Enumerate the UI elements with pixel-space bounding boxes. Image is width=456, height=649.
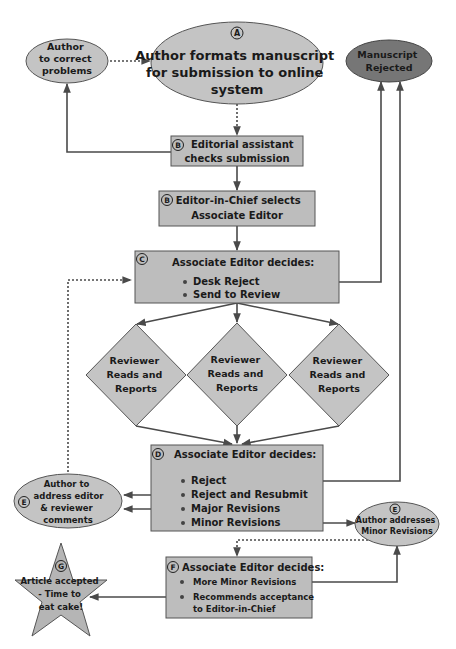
node-author-minor-revisions: E Author addresses Minor Revisions: [355, 502, 439, 546]
svg-text:Reviewer Reads and: Reviewer Reads and Reports: [309, 355, 368, 394]
badge-e: E: [393, 506, 398, 514]
svg-text:Reject and Resubmit: Reject and Resubmit: [191, 489, 308, 500]
svg-text:Associate Editor decides:: Associate Editor decides:: [182, 562, 324, 573]
node-article-accepted: G Article accepted - Time to eat cake!: [15, 543, 107, 636]
svg-text:More Minor Revisions: More Minor Revisions: [193, 577, 296, 587]
arrow-reviewer-3-to-d: [242, 426, 339, 444]
svg-text:Author formats manuscript: Author formats manuscript for submission…: [135, 48, 339, 97]
arrow-c-to-reviewer-3: [237, 303, 338, 324]
arrow-c-to-reviewer-1: [137, 303, 237, 324]
svg-text:to Editor-in-Chief: to Editor-in-Chief: [193, 604, 276, 614]
svg-text:Major Revisions: Major Revisions: [191, 503, 280, 514]
node-ae-decides-d: D Associate Editor decides: Reject Rejec…: [151, 445, 323, 531]
badge-f: F: [170, 563, 175, 572]
svg-text:Reject: Reject: [191, 475, 227, 486]
node-reviewer-1: Reviewer Reads and Reports: [86, 324, 186, 426]
node-reviewer-2: Reviewer Reads and Reports: [187, 323, 287, 426]
arrow-author-minor-to-ae-f: [237, 540, 372, 556]
node-reviewer-3: Reviewer Reads and Reports: [289, 324, 389, 426]
badge-e: E: [21, 498, 26, 507]
svg-text:Reviewer Reads and: Reviewer Reads and Reports: [106, 355, 165, 394]
svg-text:Author to correct: Author to correct problems: [39, 41, 95, 76]
node-author-to-correct: Author to correct problems: [26, 39, 108, 83]
svg-text:Recommends acceptance: Recommends acceptance: [193, 592, 314, 602]
node-author-address-comments: E Author to address editor & reviewer co…: [14, 474, 122, 528]
node-manuscript-rejected: Manuscript Rejected: [346, 40, 432, 82]
badge-a-label: A: [234, 29, 241, 38]
svg-text:Associate Editor decides:: Associate Editor decides:: [172, 257, 314, 268]
arrow-assistant-to-correct: [67, 84, 171, 152]
node-editor-in-chief: B Editor-in-Chief selects Associate Edit…: [159, 191, 315, 226]
badge-b: B: [164, 196, 170, 205]
badge-g: G: [58, 562, 64, 571]
node-editorial-assistant: B Editorial assistant checks submission: [171, 136, 303, 166]
badge-c: C: [139, 255, 145, 264]
badge-d: D: [155, 450, 161, 459]
svg-text:Send to Review: Send to Review: [193, 289, 280, 300]
badge-b: B: [175, 141, 181, 150]
svg-text:Desk Reject: Desk Reject: [193, 276, 260, 287]
svg-text:Associate Editor decides:: Associate Editor decides:: [174, 449, 316, 460]
svg-text:Reviewer Reads and: Reviewer Reads and Reports: [207, 354, 266, 393]
svg-text:Minor Revisions: Minor Revisions: [191, 517, 281, 528]
node-ae-decides-f: F Associate Editor decides: More Minor R…: [166, 557, 324, 618]
node-author-formats: A Author formats manuscript for submissi…: [135, 22, 339, 104]
arrow-reviewer-1-to-d: [136, 426, 232, 444]
flowchart: Author to correct problems A Author form…: [0, 0, 456, 649]
node-ae-decides-c: C Associate Editor decides: Desk Reject …: [135, 251, 339, 303]
